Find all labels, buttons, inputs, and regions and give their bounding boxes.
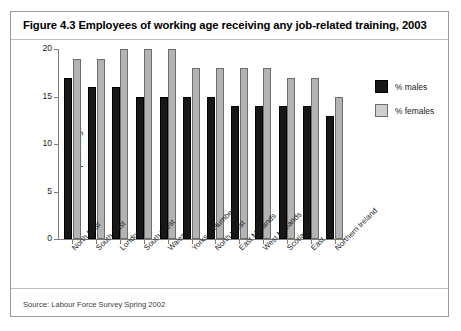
bar-males [303, 106, 311, 239]
source-divider [11, 288, 448, 289]
bar-males [326, 116, 334, 240]
bar-females [240, 68, 248, 239]
y-tick-mark [54, 144, 58, 145]
y-tick-mark [54, 49, 58, 50]
bar-group [136, 49, 153, 239]
bar-females [97, 59, 105, 240]
bar-females [144, 49, 152, 239]
bar-group [160, 49, 177, 239]
bar-females [335, 97, 343, 240]
bar-males [207, 97, 215, 240]
bar-females [311, 78, 319, 240]
bar-females [168, 49, 176, 239]
y-tick-label: 15 [42, 91, 52, 101]
y-tick-mark [54, 239, 58, 240]
y-tick-label: 20 [42, 43, 52, 53]
bar-females [192, 68, 200, 239]
bar-females [73, 59, 81, 240]
bar-group [183, 49, 200, 239]
chart-legend: % males % females [375, 80, 453, 128]
bar-males [88, 87, 96, 239]
y-tick-mark [54, 192, 58, 193]
bar-group [207, 49, 224, 239]
legend-item-males: % males [375, 80, 453, 93]
y-tick-label: 5 [47, 186, 52, 196]
bar-males [183, 97, 191, 240]
source-note: Source: Labour Force Survey Spring 2002 [23, 300, 165, 309]
legend-swatch-females-icon [375, 104, 388, 117]
bar-males [255, 106, 263, 239]
bar-males [231, 106, 239, 239]
bar-males [64, 78, 72, 240]
y-tick-label: 10 [42, 138, 52, 148]
figure-frame: Figure 4.3 Employees of working age rece… [10, 11, 449, 317]
bar-group [255, 49, 272, 239]
legend-item-females: % females [375, 104, 453, 117]
bar-males [136, 97, 144, 240]
title-divider [11, 39, 448, 40]
legend-label-males: % males [395, 82, 427, 92]
legend-label-females: % females [395, 106, 434, 116]
bar-group [279, 49, 296, 239]
bar-males [160, 97, 168, 240]
bar-males [279, 106, 287, 239]
bar-females [120, 49, 128, 239]
bars-layer [59, 49, 345, 240]
bar-group [326, 49, 343, 239]
bar-males [112, 87, 120, 239]
bar-group [88, 49, 105, 239]
chart-plot-area: 05101520 percentage North EastSouth East… [58, 49, 345, 240]
page-title: Figure 4.3 Employees of working age rece… [23, 19, 427, 31]
bar-group [112, 49, 129, 239]
y-tick-label: 0 [47, 233, 52, 243]
bar-group [303, 49, 320, 239]
legend-swatch-males-icon [375, 80, 388, 93]
bar-group [64, 49, 81, 239]
y-tick-mark [54, 97, 58, 98]
